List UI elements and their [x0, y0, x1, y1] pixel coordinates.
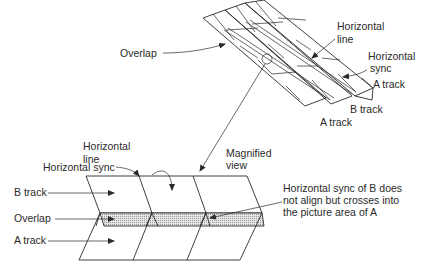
mag-note-line-1: Horizontal sync of B does	[283, 182, 402, 194]
upper-horizontal-line-label-2: line	[337, 33, 354, 45]
upper-a-track-bottom-label: A track	[320, 116, 353, 128]
upper-track-1	[203, 10, 326, 106]
upper-overlap-label: Overlap	[120, 47, 157, 59]
upper-a-track-right-label: A track	[373, 78, 406, 90]
mag-note-line-3: the picture area of A	[283, 206, 377, 218]
mag-horizontal-line-label-1: Horizontal	[83, 140, 130, 152]
mag-magnified-view-label-2: view	[226, 159, 247, 171]
mag-horizontal-sync-arrow	[116, 167, 139, 176]
mag-b-track-label: B track	[14, 186, 47, 198]
magnify-circle	[262, 54, 272, 64]
upper-b-track-label: B track	[350, 103, 383, 115]
mag-horizontal-sync-label: Horizontal sync	[43, 161, 115, 173]
mag-horizontal-line-arrow	[152, 171, 172, 190]
helical-scan-track-diagram: Overlap Horizontal line Horizontal sync …	[0, 0, 432, 275]
mag-a-track-label: A track	[14, 234, 47, 246]
mag-b-track-dividers	[139, 176, 206, 213]
upper-tape-tracks	[203, 0, 373, 106]
mag-magnified-view-label-1: Magnified	[226, 147, 272, 159]
upper-overlap-arrow	[163, 44, 225, 53]
upper-horizontal-sync-label-2: sync	[370, 62, 392, 74]
mag-note-line-2: not align but crosses into	[283, 194, 399, 206]
upper-horizontal-sync-label-1: Horizontal	[368, 50, 415, 62]
mag-overlap-label: Overlap	[14, 212, 51, 224]
upper-horizontal-line-label-1: Horizontal	[337, 20, 384, 32]
mag-overlap-band	[100, 213, 264, 226]
mag-b-track-outline	[86, 176, 262, 213]
